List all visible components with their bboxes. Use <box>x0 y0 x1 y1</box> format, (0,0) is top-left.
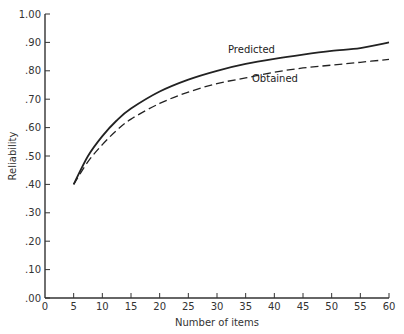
y-tick-label: .90 <box>25 37 41 48</box>
axes <box>45 14 389 298</box>
series-lines <box>74 42 389 184</box>
y-tick-label: .60 <box>25 122 41 133</box>
x-tick-label: 40 <box>268 301 281 312</box>
x-tick-label: 5 <box>70 301 76 312</box>
x-tick-label: 55 <box>354 301 367 312</box>
x-tick-label: 35 <box>239 301 252 312</box>
y-tick-label: .50 <box>25 151 41 162</box>
x-tick-label: 60 <box>383 301 396 312</box>
x-tick-label: 10 <box>96 301 109 312</box>
predicted-label: Predicted <box>228 44 275 55</box>
x-tick-label: 45 <box>297 301 310 312</box>
y-tick-label: .80 <box>25 65 41 76</box>
y-tick-label: .30 <box>25 207 41 218</box>
y-tick-label: .00 <box>25 293 41 304</box>
x-tick-label: 30 <box>211 301 224 312</box>
y-tick-label: 1.00 <box>19 9 41 20</box>
y-tick-label: .70 <box>25 94 41 105</box>
x-tick-label: 20 <box>153 301 166 312</box>
x-tick-label: 25 <box>182 301 195 312</box>
x-ticks: 051015202530354045505560 <box>42 293 396 312</box>
reliability-chart: 051015202530354045505560 .00.10.20.30.40… <box>0 0 404 334</box>
y-tick-label: .10 <box>25 264 41 275</box>
x-axis-title: Number of items <box>175 317 259 328</box>
series-line-obtained <box>74 59 389 184</box>
y-tick-label: .20 <box>25 236 41 247</box>
y-axis-title: Reliability <box>7 131 18 180</box>
obtained-label: Obtained <box>252 73 298 84</box>
x-tick-label: 50 <box>325 301 338 312</box>
y-tick-label: .40 <box>25 179 41 190</box>
x-tick-label: 0 <box>42 301 48 312</box>
x-tick-label: 15 <box>125 301 138 312</box>
